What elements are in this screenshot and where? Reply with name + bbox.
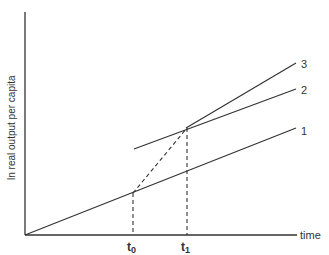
line-3-label: 3: [301, 58, 307, 70]
line-2-label: 2: [301, 84, 307, 96]
t1-label: t1: [181, 240, 190, 255]
x-axis-label: time: [300, 229, 321, 241]
line-1-label: 1: [301, 125, 307, 137]
y-axis-label: ln real output per capita: [6, 75, 17, 180]
growth-line-1: [25, 128, 296, 235]
growth-line-2: [134, 89, 296, 149]
growth-path-diagram: 1 2 3 time ln real output per capita t0 …: [0, 0, 329, 255]
t0-label: t0: [127, 240, 136, 255]
transition-dashed-line: [133, 128, 187, 193]
